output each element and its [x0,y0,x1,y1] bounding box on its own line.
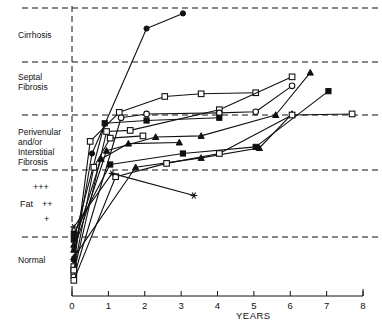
data-point-open-square [289,74,295,80]
series-patient-9 [71,111,355,283]
data-point-open-circle [144,111,150,117]
data-point-filled-square [71,231,76,236]
x-tick-label-2: 2 [137,300,153,311]
series-line [74,136,143,270]
data-point-open-square [91,164,97,170]
data-point-star [190,193,197,199]
data-point-open-square [198,91,204,97]
data-point-filled-circle [180,11,185,16]
data-point-open-square [349,111,355,117]
series-group [70,11,354,283]
data-point-filled-square [108,162,113,167]
series-line [74,143,179,245]
data-point-open-square [162,94,168,100]
data-point-filled-triangle [307,69,313,75]
series-line [74,93,256,267]
x-tick-label-4: 4 [210,300,226,311]
data-point-open-square [289,112,295,118]
data-point-open-square [87,139,93,145]
fat-label: Fat [20,199,33,209]
series-patient-4 [71,83,295,280]
fat-grade-3: +++ [33,182,49,192]
y-band-label-septal-fibrosis: SeptalFibrosis [18,72,48,92]
x-tick-label-1: 1 [100,300,116,311]
fat-grade-2: ++ [42,199,53,209]
fat-grade-1: + [44,214,49,224]
data-point-open-square [104,129,110,135]
data-point-open-square [107,135,113,141]
y-band-label-normal: Normal [18,255,45,265]
data-point-filled-square [326,89,331,94]
data-point-open-circle [289,83,295,89]
series-line [74,114,292,257]
data-point-filled-circle [89,151,94,156]
data-point-filled-square [180,151,185,156]
data-point-open-square [116,110,122,116]
x-tick-label-6: 6 [282,300,298,311]
data-point-filled-square [217,115,222,120]
data-point-open-circle [118,115,124,121]
data-point-open-square [164,161,170,167]
x-tick-label-7: 7 [319,300,335,311]
series-line [74,77,292,273]
x-axis-title: YEARS [236,310,271,321]
data-point-open-square [140,133,146,139]
data-point-open-square [71,278,77,284]
data-point-open-square [127,128,133,134]
x-tick-label-8: 8 [355,300,371,311]
series-patient-2 [71,90,258,269]
data-point-filled-circle [144,26,149,31]
chart-figure: Cirrhosis SeptalFibrosis Perivenularand/… [0,0,382,331]
data-point-open-circle [253,109,259,115]
data-point-filled-square [102,121,107,126]
data-point-open-square [217,151,223,157]
axes-group [72,289,363,296]
x-tick-label-3: 3 [173,300,189,311]
x-tick-label-0: 0 [64,300,80,311]
y-band-label-cirrhosis: Cirrhosis [18,30,52,40]
series-line [74,73,310,250]
series-patient-6 [71,115,222,242]
data-point-open-square [71,267,77,273]
y-band-label-perivenular-fibrosis: Perivenularand/orInterstitialFibrosis [18,127,61,167]
data-point-filled-square [144,118,149,123]
